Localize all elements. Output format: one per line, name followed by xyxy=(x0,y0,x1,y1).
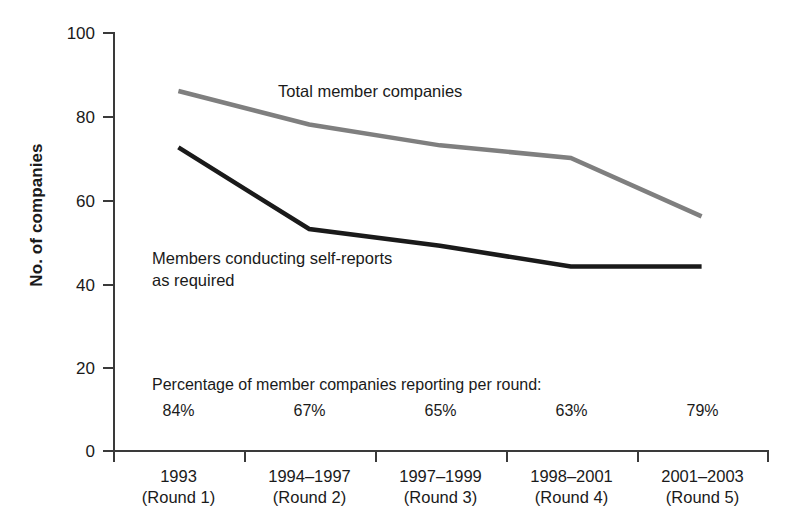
percentage-value-round-3: 65% xyxy=(375,402,506,420)
percentage-value-round-2: 67% xyxy=(244,402,375,420)
series-label-self-reports-line2: as required xyxy=(152,269,392,291)
series-label-total-member-companies: Total member companies xyxy=(278,82,462,101)
series-plot xyxy=(0,0,809,530)
percentage-value-round-5: 79% xyxy=(637,402,768,420)
series-label-members-conducting-self-reports: Members conducting self-reports as requi… xyxy=(152,247,392,291)
percentage-value-round-4: 63% xyxy=(506,402,637,420)
chart-figure: No. of companies 100 80 60 40 20 0 1993 … xyxy=(0,0,809,530)
percentage-value-round-1: 84% xyxy=(113,402,244,420)
percentage-caption: Percentage of member companies reporting… xyxy=(152,376,542,394)
series-label-self-reports-line1: Members conducting self-reports xyxy=(152,247,392,269)
